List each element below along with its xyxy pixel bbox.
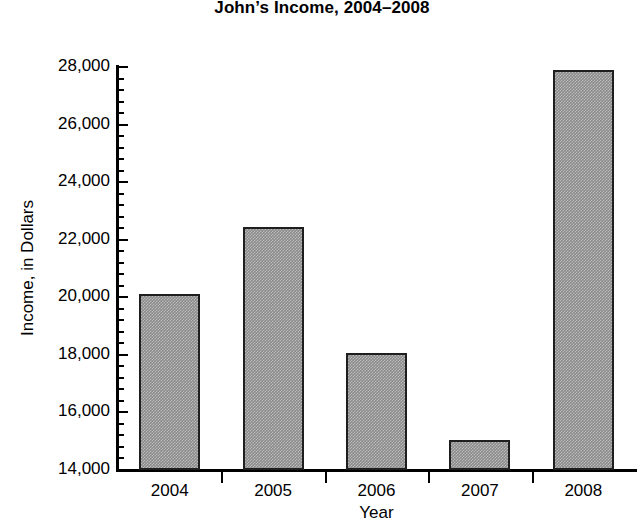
- bar-2006: [346, 353, 407, 470]
- y-tick-label: 22,000: [32, 229, 110, 249]
- bar-chart: John’s Income, 2004–2008 Income, in Doll…: [0, 0, 644, 532]
- x-tick-label: 2004: [118, 481, 221, 501]
- bar-2005: [243, 227, 304, 470]
- bar-2008: [553, 70, 614, 470]
- x-tick-label: 2008: [532, 481, 635, 501]
- y-tick-label: 26,000: [32, 114, 110, 134]
- y-tick-label: 18,000: [32, 344, 110, 364]
- y-axis-tick-labels: 28,00026,00024,00022,00020,00018,00016,0…: [30, 0, 110, 532]
- bar-2007: [449, 440, 510, 470]
- y-tick-label: 20,000: [32, 286, 110, 306]
- x-axis-title: Year: [118, 503, 635, 523]
- bar-2004: [139, 294, 200, 470]
- y-tick-label: 16,000: [32, 401, 110, 421]
- y-tick-label: 28,000: [32, 56, 110, 76]
- x-tick-label: 2005: [222, 481, 325, 501]
- y-tick-label: 14,000: [32, 459, 110, 479]
- x-tick-label: 2007: [428, 481, 531, 501]
- plot-area: [118, 67, 635, 470]
- x-tick-label: 2006: [325, 481, 428, 501]
- y-tick-label: 24,000: [32, 171, 110, 191]
